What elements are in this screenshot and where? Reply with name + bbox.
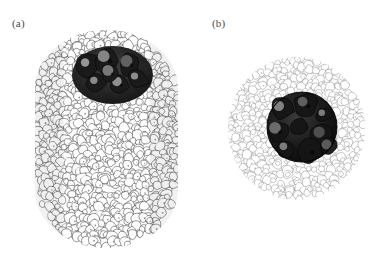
panel-b: (b) bbox=[196, 0, 391, 267]
panel-a: (a) bbox=[0, 0, 196, 267]
panel-a-render-stage bbox=[0, 0, 196, 267]
panel-b-shell-group bbox=[226, 54, 368, 203]
figure-root: (a) (b) bbox=[0, 0, 391, 267]
panel-b-render-stage bbox=[196, 0, 391, 267]
panel-a-shell-group bbox=[32, 28, 183, 252]
panel-a-capsule-render bbox=[0, 0, 196, 267]
panel-b-cross-section-render bbox=[196, 0, 391, 267]
